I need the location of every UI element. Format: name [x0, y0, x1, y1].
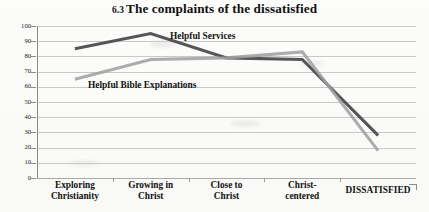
- series-line-helpful-bible-explanations: [75, 52, 378, 151]
- series-label-helpful-services: Helpful Services: [170, 31, 235, 41]
- y-axis-tick: [31, 102, 36, 103]
- y-axis-tick: [31, 56, 36, 57]
- x-axis-category-label-line1: Christ-: [288, 180, 316, 190]
- x-axis-tick: [340, 178, 341, 182]
- chart-container: 6.3The complaints of the dissatisfied 01…: [0, 0, 429, 212]
- x-axis-category-label-line1: Exploring: [55, 180, 95, 190]
- y-axis-tick: [31, 132, 36, 133]
- x-axis-category-label-line1: Growing in: [128, 180, 173, 190]
- x-axis-labels: ExploringChristianityGrowing inChristClo…: [37, 179, 416, 212]
- x-axis-tick: [113, 178, 114, 182]
- x-axis-category-label-line1: Close to: [211, 180, 243, 190]
- y-axis-tick: [31, 178, 36, 179]
- x-axis-category-label-line1: DISSATISFIED: [346, 185, 411, 195]
- x-axis-tick: [189, 178, 190, 182]
- y-axis-tick: [31, 26, 36, 27]
- y-axis-tick: [31, 72, 36, 73]
- x-axis-tick: [264, 178, 265, 182]
- y-axis-tick: [31, 41, 36, 42]
- corner-bracket-icon: [409, 184, 417, 190]
- series-label-helpful-bible-explanations: Helpful Bible Explanations: [88, 80, 196, 90]
- y-axis-tick: [31, 163, 36, 164]
- y-axis-tick: [31, 117, 36, 118]
- y-axis-tick: [31, 148, 36, 149]
- y-axis-tick: [31, 87, 36, 88]
